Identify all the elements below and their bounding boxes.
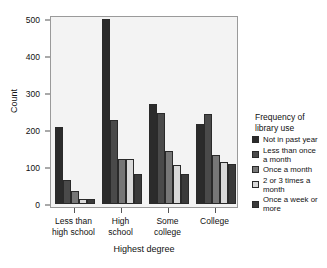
legend-swatch [252, 136, 259, 143]
bar [228, 164, 236, 204]
bar [181, 174, 189, 204]
y-axis-ticks: 0100200300400500 [0, 0, 50, 268]
y-tick-label: 300 [26, 89, 40, 99]
y-tick-label: 400 [26, 52, 40, 62]
bar [220, 162, 228, 204]
legend-label-line: a month [263, 155, 316, 164]
bar [149, 104, 157, 204]
legend-label-line: Less than once [263, 146, 316, 155]
legend-label: Once a month [263, 165, 312, 174]
x-tick-label: College [185, 216, 245, 227]
bars-layer [51, 17, 237, 207]
legend-label: Once a week ormore [263, 195, 318, 213]
x-tick-label-line: college [138, 227, 198, 238]
legend-title-line: Frequency of [255, 112, 327, 123]
legend-item[interactable]: Once a week ormore [252, 195, 327, 213]
bar [87, 199, 95, 204]
x-axis-title: Highest degree [50, 244, 238, 254]
legend-item[interactable]: 2 or 3 times amonth [252, 176, 327, 194]
x-tick-label-line: College [185, 216, 245, 227]
legend-label: Less than oncea month [263, 146, 316, 164]
y-tick-label: 200 [26, 126, 40, 136]
bar [55, 127, 63, 204]
x-tick-mark [74, 208, 75, 213]
x-tick-mark [215, 208, 216, 213]
legend-label: 2 or 3 times amonth [263, 176, 310, 194]
legend-swatch [252, 181, 259, 188]
legend-swatch [252, 166, 259, 173]
bar [102, 19, 110, 204]
legend-items: Not in past yearLess than oncea monthOnc… [252, 135, 327, 213]
legend-label-line: 2 or 3 times a [263, 176, 310, 185]
bar [134, 174, 142, 204]
x-tick-mark [168, 208, 169, 213]
legend-item[interactable]: Less than oncea month [252, 146, 327, 164]
legend: Frequency oflibrary use Not in past year… [252, 112, 327, 215]
legend-title: Frequency oflibrary use [252, 112, 327, 133]
legend-label-line: month [263, 185, 310, 194]
bar [157, 113, 165, 204]
bar-chart-figure: Count 0100200300400500 Less thanhigh sch… [0, 0, 327, 268]
legend-label-line: Not in past year [263, 135, 318, 144]
bar [165, 151, 173, 204]
legend-item[interactable]: Not in past year [252, 135, 327, 144]
legend-title-line: library use [255, 123, 327, 134]
legend-swatch [252, 151, 259, 158]
legend-label-line: more [263, 204, 318, 213]
bar [71, 191, 79, 204]
y-tick-label: 500 [26, 15, 40, 25]
legend-label: Not in past year [263, 135, 318, 144]
y-tick-label: 100 [26, 163, 40, 173]
bar [204, 114, 212, 204]
bar [79, 199, 87, 204]
bar [126, 159, 134, 204]
bar [118, 159, 126, 204]
legend-swatch [252, 201, 259, 208]
bar [110, 120, 118, 204]
legend-label-line: Once a month [263, 165, 312, 174]
x-tick-mark [121, 208, 122, 213]
y-tick-label: 0 [35, 200, 40, 210]
legend-item[interactable]: Once a month [252, 165, 327, 174]
bar [212, 155, 220, 204]
plot-panel [50, 16, 238, 208]
legend-label-line: Once a week or [263, 195, 318, 204]
bar [63, 180, 71, 204]
x-axis-ticks: Less thanhigh schoolHighschoolSomecolleg… [50, 208, 238, 268]
bar [173, 165, 181, 204]
bar [196, 124, 204, 204]
